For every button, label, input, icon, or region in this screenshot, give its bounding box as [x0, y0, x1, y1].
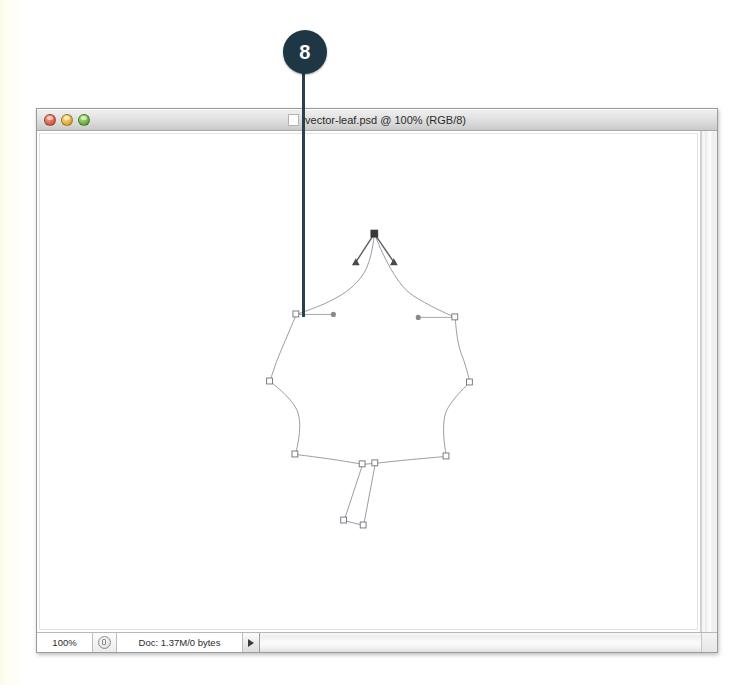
handle-point-top-left[interactable]	[352, 258, 360, 265]
anchor-point-stem-top-right[interactable]	[372, 460, 378, 466]
callout-badge-8: 8	[283, 30, 327, 74]
window-controls	[44, 114, 90, 126]
anchor-point-stem-bottom-right[interactable]	[360, 522, 366, 528]
leaf-outline-path[interactable]	[270, 234, 470, 465]
zoom-level-field[interactable]: 100%	[37, 633, 93, 652]
window-body: 100% Doc: 1.37M/0 bytes	[37, 131, 717, 652]
window-title: vector-leaf.psd @ 100% (RGB/8)	[305, 114, 466, 126]
handle-line-top-left[interactable]	[356, 234, 375, 263]
photoshop-document-window: vector-leaf.psd @ 100% (RGB/8)	[36, 108, 718, 653]
anchor-point-left-mid[interactable]	[267, 378, 273, 384]
window-resize-grip[interactable]	[701, 633, 717, 652]
document-info-field[interactable]: Doc: 1.37M/0 bytes	[117, 633, 243, 652]
callout-badge-number: 8	[299, 42, 311, 62]
document-icon[interactable]	[288, 114, 299, 126]
close-button[interactable]	[44, 114, 56, 126]
canvas-row	[37, 131, 717, 632]
minimize-button[interactable]	[61, 114, 73, 126]
document-canvas[interactable]	[37, 131, 701, 632]
handle-point-right[interactable]	[416, 315, 421, 320]
anchor-points	[267, 230, 473, 528]
anchor-point-right-base[interactable]	[443, 453, 449, 459]
anchor-point-left-shoulder[interactable]	[293, 311, 299, 317]
anchor-point-stem-top-left[interactable]	[359, 461, 365, 467]
anchor-point-right-shoulder[interactable]	[452, 314, 458, 320]
triangle-right-icon	[248, 639, 254, 647]
horizontal-scrollbar[interactable]	[260, 633, 701, 652]
handle-line-top-right[interactable]	[374, 234, 394, 263]
leaf-stem-path[interactable]	[344, 463, 375, 525]
vertical-scrollbar-track[interactable]	[705, 131, 714, 632]
anchor-point-stem-bottom-left[interactable]	[341, 517, 347, 523]
status-icon-button[interactable]	[93, 633, 117, 652]
direction-handles	[296, 234, 455, 318]
handle-point-left[interactable]	[331, 312, 336, 317]
window-titlebar[interactable]: vector-leaf.psd @ 100% (RGB/8)	[37, 109, 717, 131]
vertical-scrollbar[interactable]	[701, 131, 717, 632]
gear-icon	[98, 636, 111, 649]
window-title-group: vector-leaf.psd @ 100% (RGB/8)	[37, 114, 717, 126]
anchor-point-right-mid[interactable]	[466, 379, 472, 385]
zoom-button[interactable]	[78, 114, 90, 126]
status-bar: 100% Doc: 1.37M/0 bytes	[37, 632, 717, 652]
anchor-point-selected-top[interactable]	[371, 230, 378, 237]
status-expand-button[interactable]	[243, 633, 260, 652]
direction-handle-points	[331, 258, 421, 320]
anchor-point-left-base[interactable]	[292, 451, 298, 457]
vector-leaf-path[interactable]	[37, 131, 700, 632]
